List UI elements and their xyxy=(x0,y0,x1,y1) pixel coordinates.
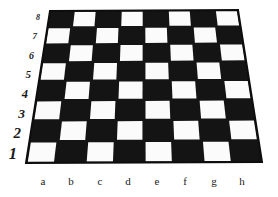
rank-label-3: 3 xyxy=(13,107,25,121)
board-square-b8 xyxy=(73,12,96,27)
board-square-h8 xyxy=(216,11,239,26)
board-square-b6 xyxy=(69,45,93,61)
board-square-e5 xyxy=(145,63,168,80)
rank-label-4: 4 xyxy=(16,88,28,101)
file-label-b: b xyxy=(63,176,79,187)
board-square-h6 xyxy=(220,44,245,60)
rank-label-5: 5 xyxy=(19,69,31,80)
rank-label-7: 7 xyxy=(25,32,37,41)
board-square-h2 xyxy=(229,121,257,140)
board-square-c3 xyxy=(90,101,115,119)
board-square-d8 xyxy=(121,11,142,26)
board-square-d4 xyxy=(119,81,143,98)
board-square-b2 xyxy=(60,121,87,140)
board-square-f8 xyxy=(169,11,191,26)
board-square-b4 xyxy=(65,82,90,99)
rank-label-6: 6 xyxy=(22,51,34,61)
board-square-f2 xyxy=(173,121,199,140)
board-square-d6 xyxy=(120,45,143,61)
board-square-c7 xyxy=(96,28,119,43)
board-square-a1 xyxy=(28,142,57,161)
board-square-e7 xyxy=(145,28,167,43)
board-square-f6 xyxy=(170,45,193,61)
file-label-d: d xyxy=(120,176,136,187)
chessboard-image: 87654321 abcdefgh xyxy=(0,0,278,197)
board-square-c1 xyxy=(87,142,114,161)
board-square-f4 xyxy=(172,81,197,98)
file-label-g: g xyxy=(206,176,222,187)
file-label-c: c xyxy=(92,176,108,187)
board-square-g1 xyxy=(203,142,231,161)
board-squares xyxy=(26,10,262,163)
board-square-g7 xyxy=(194,27,217,42)
file-label-a: a xyxy=(35,176,51,187)
rank-label-2: 2 xyxy=(9,126,21,141)
file-label-e: e xyxy=(149,176,165,187)
file-label-f: f xyxy=(177,176,193,187)
board-square-a7 xyxy=(46,28,70,43)
board-square-d2 xyxy=(117,121,143,140)
board-square-e3 xyxy=(145,101,170,119)
board-square-g5 xyxy=(197,62,222,79)
rank-label-1: 1 xyxy=(5,146,17,163)
file-label-h: h xyxy=(234,176,250,187)
board-square-c5 xyxy=(93,63,117,80)
board-square-e1 xyxy=(146,142,172,161)
board-square-a3 xyxy=(34,101,61,119)
board-square-g3 xyxy=(200,101,226,119)
chessboard-graphic xyxy=(0,0,278,197)
rank-label-8: 8 xyxy=(28,14,40,22)
board-square-a5 xyxy=(41,63,66,80)
board-square-h4 xyxy=(224,81,250,98)
